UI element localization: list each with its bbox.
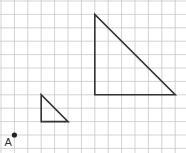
grid-diagram: A	[0, 0, 186, 153]
square-grid	[0, 0, 186, 153]
point-a-dot	[12, 132, 17, 137]
point-a-label: A	[4, 136, 12, 148]
